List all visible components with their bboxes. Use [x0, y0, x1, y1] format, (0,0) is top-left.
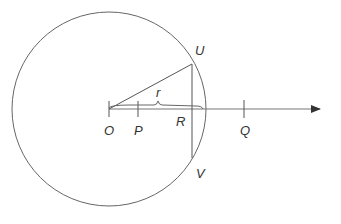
label-U: U [195, 43, 205, 58]
label-Q: Q [240, 123, 250, 138]
label-R: R [176, 114, 185, 129]
label-r: r [156, 85, 161, 100]
radius-brace [109, 101, 203, 109]
label-O: O [104, 123, 114, 138]
geometry-diagram: O P R Q U V r [0, 0, 341, 224]
segment-OU [109, 64, 192, 109]
label-P: P [134, 123, 143, 138]
label-V: V [196, 166, 206, 181]
diagram-svg: O P R Q U V r [0, 0, 341, 224]
